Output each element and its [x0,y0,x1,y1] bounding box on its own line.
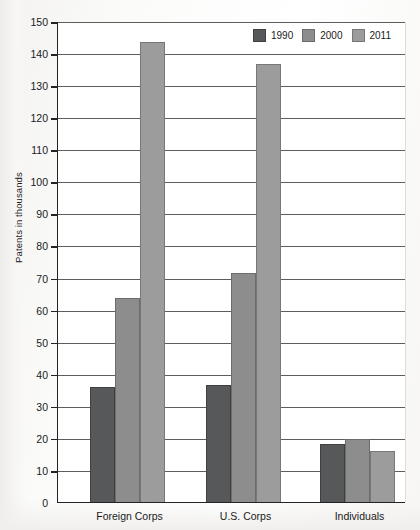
legend-swatch-1990 [253,29,266,42]
y-tick-label-70: 70 [36,273,48,285]
legend-item-2000[interactable]: 2000 [302,29,342,42]
legend: 199020002011 [253,29,391,42]
y-tick-label-140: 140 [30,48,48,60]
y-tick-label-90: 90 [36,208,48,220]
x-axis-label: Individuals [290,510,420,522]
y-tick-label-40: 40 [36,369,48,381]
y-tick-label-120: 120 [30,112,48,124]
bar-1990[interactable] [320,444,345,502]
gridline-0: 0 [58,503,406,504]
y-tick-110 [51,150,58,152]
y-tick-150 [51,22,58,24]
y-tick-label-80: 80 [36,240,48,252]
bar-2000[interactable] [231,273,256,502]
y-tick-30 [51,407,58,409]
y-tick-70 [51,279,58,281]
y-tick-label-50: 50 [36,337,48,349]
y-tick-label-60: 60 [36,305,48,317]
bar-2000[interactable] [345,439,370,502]
bar-1990[interactable] [90,387,115,502]
y-tick-100 [51,182,58,184]
y-tick-label-10: 10 [36,465,48,477]
y-tick-120 [51,118,58,120]
legend-label-2000: 2000 [320,31,342,41]
y-tick-140 [51,54,58,56]
y-axis-title: Patents in thousands [13,148,24,288]
legend-swatch-2000 [302,29,315,42]
y-tick-130 [51,86,58,88]
bar-2011[interactable] [140,42,165,502]
y-tick-80 [51,246,58,248]
bar-1990[interactable] [206,385,231,502]
legend-label-1990: 1990 [271,31,293,41]
y-tick-40 [51,375,58,377]
legend-swatch-2011 [352,29,365,42]
bar-chart: Patents in thousands 1501401301201101009… [0,0,420,530]
legend-item-1990[interactable]: 1990 [253,29,293,42]
bar-2011[interactable] [370,451,395,502]
bar-group: Individuals [320,22,399,502]
bar-2000[interactable] [115,298,140,502]
bar-group: U.S. Corps [206,22,285,502]
legend-label-2011: 2011 [370,31,392,41]
y-tick-60 [51,311,58,313]
y-tick-label-20: 20 [36,433,48,445]
y-tick-label-150: 150 [30,16,48,28]
y-tick-20 [51,439,58,441]
legend-item-2011[interactable]: 2011 [352,29,392,42]
y-tick-10 [51,471,58,473]
plot-area: 1501401301201101009080706050403020100 Fo… [57,22,405,503]
y-tick-90 [51,214,58,216]
y-tick-label-100: 100 [30,176,48,188]
y-tick-label-130: 130 [30,80,48,92]
bar-group: Foreign Corps [90,22,169,502]
y-tick-label-0: 0 [42,497,48,509]
y-tick-50 [51,343,58,345]
y-tick-label-110: 110 [31,144,48,156]
bar-2011[interactable] [256,64,281,502]
y-tick-label-30: 30 [36,401,48,413]
